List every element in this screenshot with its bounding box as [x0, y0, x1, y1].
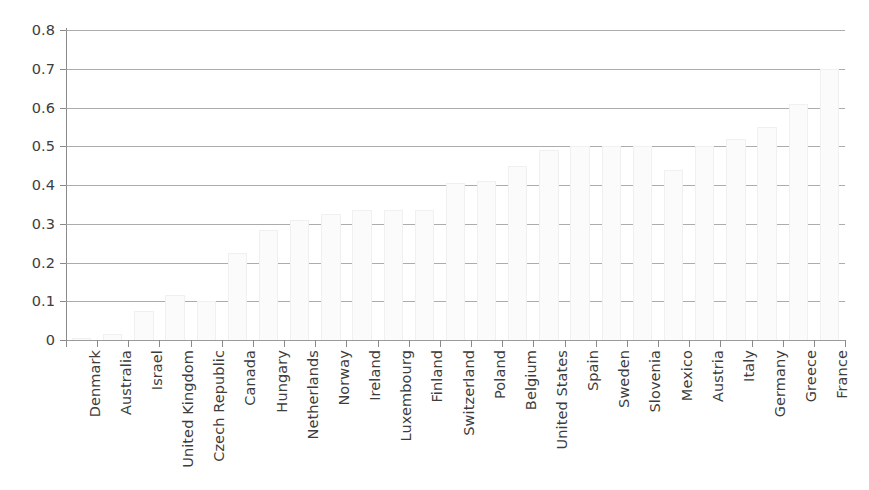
x-tick-mark [66, 340, 67, 347]
x-tick-mark [689, 340, 690, 347]
x-tick-mark [378, 340, 379, 347]
y-tick-label: 0.4 [0, 178, 55, 192]
x-tick-mark [596, 340, 597, 347]
x-tick-mark [752, 340, 753, 347]
x-tick-mark [658, 340, 659, 347]
x-tick-mark [627, 340, 628, 347]
bar [695, 146, 714, 340]
x-tick-label: Canada [243, 350, 258, 406]
x-axis-labels: DenmarkAustraliaIsraelUnited KingdomCzec… [66, 350, 845, 485]
bar [570, 146, 589, 340]
x-tick-mark [346, 340, 347, 347]
x-tick-mark [191, 340, 192, 347]
x-tick-mark [253, 340, 254, 347]
x-tick-mark [222, 340, 223, 347]
y-tick-label: 0 [0, 333, 55, 347]
bar [820, 69, 839, 340]
bar [290, 220, 309, 340]
x-tick-label: Sweden [617, 350, 632, 408]
x-tick-label: Hungary [275, 350, 290, 413]
x-tick-mark [471, 340, 472, 347]
x-tick-label: Ireland [368, 350, 383, 401]
x-tick-label: United Kingdom [181, 350, 196, 468]
bar [197, 301, 216, 340]
x-tick-label: Mexico [680, 350, 695, 401]
x-tick-mark [409, 340, 410, 347]
bar [446, 183, 465, 340]
x-tick-label: Austria [711, 350, 726, 402]
x-tick-mark [97, 340, 98, 347]
x-tick-label: Poland [493, 350, 508, 399]
x-tick-label: Belgium [524, 350, 539, 410]
bar [726, 139, 745, 341]
bar [789, 104, 808, 340]
x-tick-label: Netherlands [306, 350, 321, 440]
x-tick-mark [315, 340, 316, 347]
bar [602, 146, 621, 340]
bar [259, 230, 278, 340]
bar [134, 311, 153, 340]
bar [228, 253, 247, 340]
bar [633, 146, 652, 340]
x-tick-mark [533, 340, 534, 347]
bar-chart: 0.80.70.60.50.40.30.20.10 DenmarkAustral… [0, 0, 869, 490]
y-tick-label: 0.3 [0, 217, 55, 231]
x-tick-mark [284, 340, 285, 347]
x-tick-label: France [835, 350, 850, 399]
bar [384, 210, 403, 340]
x-tick-label: Italy [742, 350, 757, 382]
x-tick-mark [128, 340, 129, 347]
y-tick-label: 0.7 [0, 62, 55, 76]
x-tick-label: Denmark [88, 350, 103, 417]
x-tick-mark [502, 340, 503, 347]
bar [352, 210, 371, 340]
x-tick-label: Germany [773, 350, 788, 417]
x-tick-label: Finland [430, 350, 445, 403]
x-tick-mark [720, 340, 721, 347]
x-tick-label: Slovenia [648, 350, 663, 413]
x-tick-label: United States [555, 350, 570, 450]
x-tick-label: Spain [586, 350, 601, 391]
bar [664, 170, 683, 341]
y-tick-label: 0.1 [0, 294, 55, 308]
x-tick-label: Australia [119, 350, 134, 415]
y-tick-label: 0.6 [0, 101, 55, 115]
x-tick-mark [783, 340, 784, 347]
x-tick-label: Greece [804, 350, 819, 402]
plot-area [66, 30, 845, 340]
x-tick-label: Switzerland [462, 350, 477, 436]
x-tick-mark [565, 340, 566, 347]
bar [165, 295, 184, 340]
x-axis-ticks [66, 340, 845, 348]
bars-layer [66, 30, 845, 340]
x-tick-label: Czech Republic [212, 350, 227, 462]
x-tick-label: Israel [150, 350, 165, 390]
x-tick-label: Norway [337, 350, 352, 406]
y-tick-label: 0.2 [0, 256, 55, 270]
x-tick-mark [845, 340, 846, 347]
bar [415, 210, 434, 340]
x-tick-mark [814, 340, 815, 347]
x-tick-label: Luxembourg [399, 350, 414, 441]
y-tick-label: 0.8 [0, 23, 55, 37]
y-tick-label: 0.5 [0, 139, 55, 153]
bar [508, 166, 527, 340]
bar [477, 181, 496, 340]
x-tick-mark [159, 340, 160, 347]
bar [321, 214, 340, 340]
x-tick-mark [440, 340, 441, 347]
bar [539, 150, 558, 340]
bar [757, 127, 776, 340]
